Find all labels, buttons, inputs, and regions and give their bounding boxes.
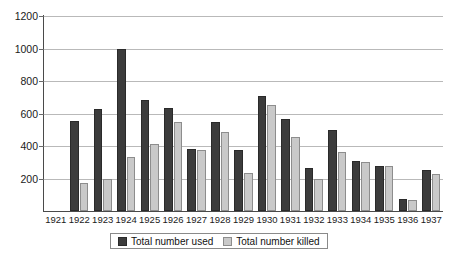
y-axis-tick-mark [39,81,44,82]
y-axis-tick-mark [39,49,44,50]
x-axis-tick-label: 1934 [349,214,372,226]
bar-total-number-used [164,108,173,211]
bar-total-number-killed [361,162,370,211]
bar-total-number-killed [314,179,323,211]
x-axis-tick-label: 1930 [255,214,278,226]
bar-total-number-used [141,100,150,211]
legend-entry: Total number killed [223,236,319,247]
bar-total-number-killed [174,122,183,211]
bar-total-number-killed [244,173,253,211]
bar-group [255,16,278,211]
x-axis-tick-label: 1937 [420,214,443,226]
bar-total-number-used [422,170,431,211]
x-axis-tick-label: 1925 [138,214,161,226]
bar-total-number-killed [197,150,206,211]
bar-total-number-killed [127,157,136,211]
x-axis-tick-label: 1922 [67,214,90,226]
x-axis-tick-label: 1921 [44,214,67,226]
x-axis-tick-label: 1926 [161,214,184,226]
legend-swatch-killed [223,237,232,246]
bar-group [44,16,67,211]
bar-group [138,16,161,211]
bar-group [279,16,302,211]
legend-label: Total number killed [236,236,319,247]
legend-entry: Total number used [118,236,213,247]
bar-total-number-used [399,199,408,211]
bar-total-number-used [187,149,196,211]
bar-group [208,16,231,211]
bar-total-number-killed [291,137,300,211]
bar-group [373,16,396,211]
bar-total-number-used [281,119,290,211]
y-axis-tick-label: 800 [0,76,38,87]
bar-group [396,16,419,211]
chart-legend: Total number usedTotal number killed [110,233,328,249]
y-axis-tick-label: 200 [0,173,38,184]
x-axis-labels: 1921192219231924192519261927192819291930… [44,214,443,228]
legend-swatch-used [118,237,127,246]
bar-total-number-killed [385,166,394,211]
y-axis-tick-mark [39,114,44,115]
y-axis-tick-mark [39,179,44,180]
bar-group [114,16,137,211]
plot-area [44,16,443,211]
x-axis-tick-label: 1924 [114,214,137,226]
bar-group [161,16,184,211]
y-axis-labels: 20040060080010001200 [0,0,38,263]
bar-total-number-used [375,166,384,211]
y-axis-tick-label: 400 [0,141,38,152]
bar-total-number-killed [432,174,441,211]
bar-total-number-killed [150,144,159,211]
bar-total-number-killed [221,132,230,211]
bar-total-number-used [305,168,314,211]
x-axis-tick-label: 1923 [91,214,114,226]
x-axis-tick-label: 1932 [302,214,325,226]
bar-chart: 20040060080010001200 1921192219231924192… [0,0,451,263]
y-axis-tick-label: 600 [0,108,38,119]
bar-total-number-used [234,150,243,211]
y-axis-tick-label: 1200 [0,11,38,22]
bar-group [349,16,372,211]
bar-total-number-used [70,121,79,211]
y-axis-tick-mark [39,146,44,147]
bar-total-number-killed [267,105,276,211]
x-axis-tick-label: 1933 [326,214,349,226]
y-axis-tick-label: 1000 [0,43,38,54]
bar-series-container [44,16,443,211]
legend-label: Total number used [131,236,213,247]
bar-total-number-used [258,96,267,211]
x-axis-line [43,211,443,212]
x-axis-tick-label: 1935 [373,214,396,226]
bar-total-number-used [117,49,126,212]
x-axis-tick-label: 1929 [232,214,255,226]
bar-total-number-killed [80,183,89,211]
bar-total-number-killed [408,200,417,211]
x-axis-tick-label: 1927 [185,214,208,226]
bar-group [91,16,114,211]
bar-group [326,16,349,211]
bar-total-number-used [328,130,337,211]
bar-group [232,16,255,211]
bar-total-number-used [352,161,361,211]
bar-group [420,16,443,211]
y-axis-tick-mark [39,16,44,17]
x-axis-tick-label: 1928 [208,214,231,226]
x-axis-tick-label: 1931 [279,214,302,226]
bar-group [302,16,325,211]
bar-total-number-killed [338,152,347,211]
bar-total-number-used [94,109,103,211]
bar-total-number-used [211,122,220,211]
bar-group [185,16,208,211]
x-axis-tick-label: 1936 [396,214,419,226]
bar-group [67,16,90,211]
bar-total-number-killed [103,179,112,211]
